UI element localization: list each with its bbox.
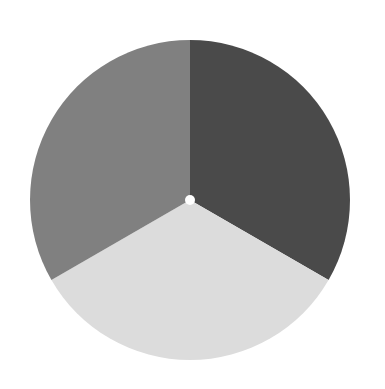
pie-center-hole [185,195,195,205]
pie-chart-container: Segment 1 33.3%Segment 2 33.3%Segment 3 … [0,0,385,389]
pie-chart-svg: Segment 1 33.3%Segment 2 33.3%Segment 3 … [0,0,385,389]
